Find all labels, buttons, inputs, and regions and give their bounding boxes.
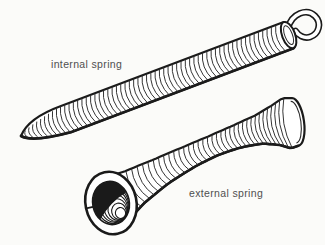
external-spring-label: external spring xyxy=(189,187,263,199)
spring-illustration-canvas xyxy=(0,0,325,245)
external-spring-drawing xyxy=(80,98,305,239)
spring-diagram: internal spring external spring xyxy=(0,0,325,245)
internal-spring-label: internal spring xyxy=(51,58,122,70)
